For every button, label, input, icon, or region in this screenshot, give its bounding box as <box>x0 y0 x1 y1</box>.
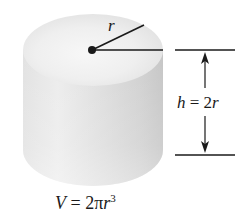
volume-formula: V = 2πr3 <box>55 193 116 212</box>
height-eq: = 2 <box>186 93 213 112</box>
center-dot <box>88 46 96 54</box>
cylinder-drawing <box>0 0 247 224</box>
volume-exponent: 3 <box>110 192 116 204</box>
height-var: h <box>177 93 186 112</box>
volume-eq: = 2π <box>66 193 103 213</box>
height-label: h = 2r <box>176 94 220 111</box>
radius-label: r <box>108 17 115 34</box>
cylinder-figure: r h = 2r V = 2πr3 <box>0 0 247 224</box>
arrow-down-icon <box>201 116 209 153</box>
height-var2: r <box>212 93 219 112</box>
volume-var: V <box>55 193 66 213</box>
arrow-up-icon <box>201 52 209 88</box>
